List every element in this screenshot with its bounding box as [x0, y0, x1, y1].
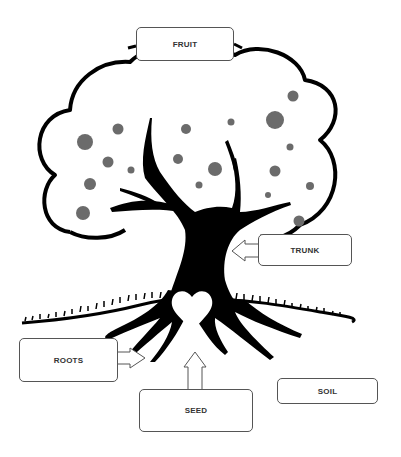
- canopy-outline-left-bottom: [70, 230, 125, 238]
- arrow-trunk: [232, 240, 258, 261]
- arrow-seed: [184, 352, 206, 389]
- fruit-box-connector-left: [128, 46, 136, 48]
- label-box-fruit[interactable]: FRUIT: [136, 27, 234, 61]
- label-box-soil[interactable]: SOIL: [277, 378, 378, 404]
- label-trunk: TRUNK: [291, 246, 320, 255]
- label-box-seed[interactable]: SEED: [139, 389, 253, 432]
- fruit-box-connector-right: [234, 44, 242, 48]
- label-roots: ROOTS: [54, 356, 83, 365]
- label-box-trunk[interactable]: TRUNK: [258, 234, 352, 266]
- label-fruit: FRUIT: [173, 40, 198, 49]
- label-seed: SEED: [185, 406, 208, 415]
- label-box-roots[interactable]: ROOTS: [19, 338, 118, 382]
- branch-right-twig: [225, 140, 238, 171]
- trunk: [143, 118, 291, 305]
- label-soil: SOIL: [318, 387, 337, 396]
- arrow-roots: [118, 348, 145, 368]
